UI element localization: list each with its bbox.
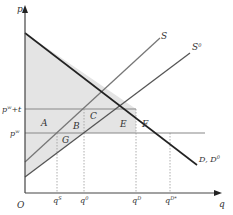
- area-label-B: B: [72, 121, 80, 131]
- tariff-diagram: p q O pw+t pw qS q0 qD qD* S S0 D, D0 A …: [0, 0, 233, 215]
- area-label-F: F: [141, 119, 149, 129]
- x-axis-label: q: [219, 199, 225, 209]
- area-label-A: A: [40, 118, 48, 128]
- area-label-C: C: [90, 111, 97, 121]
- curve-label-S: S: [161, 31, 167, 41]
- qty-label-q0: q0: [80, 195, 89, 205]
- y-axis-label: p: [17, 4, 23, 14]
- area-label-G: G: [62, 135, 69, 145]
- consumer-surplus-shade: [25, 33, 136, 109]
- curve-label-S0: S0: [192, 42, 202, 52]
- x-axis-arrow-icon: [214, 190, 222, 196]
- qty-label-qDstar: qD*: [165, 195, 177, 205]
- origin-label: O: [17, 200, 25, 210]
- y-axis-arrow-icon: [22, 5, 28, 13]
- area-label-E: E: [119, 119, 127, 129]
- curve-label-D: D, D0: [198, 154, 221, 164]
- qty-label-qD: qD: [132, 195, 141, 205]
- price-label-pw-t: pw+t: [2, 104, 22, 114]
- price-label-pw: pw: [10, 128, 20, 138]
- qty-label-qS: qS: [53, 195, 62, 205]
